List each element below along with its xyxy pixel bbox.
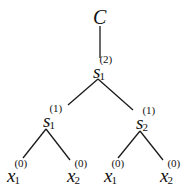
edge-s12-s11 — [68, 79, 98, 105]
node-s2-level1: s(1)2 — [136, 113, 143, 132]
node-subscript: 2 — [74, 175, 80, 186]
node-subscript: 1 — [14, 175, 20, 186]
node-superscript: (2) — [99, 54, 112, 65]
node-subscript: 1 — [111, 175, 117, 186]
edge-s11-leaf2 — [46, 129, 70, 160]
node-leaf-x2-left: x(0)2 — [67, 166, 75, 185]
node-leaf-x2-right: x(0)2 — [160, 166, 168, 185]
node-subscript: 1 — [99, 71, 105, 82]
node-subscript: 2 — [142, 122, 148, 133]
node-leaf-x1-left: x(0)1 — [7, 166, 15, 185]
edge-s12-s21 — [98, 79, 133, 110]
node-subscript: 1 — [49, 120, 55, 131]
node-superscript: (0) — [167, 158, 180, 169]
node-s1-level2: s(2)1 — [93, 62, 100, 81]
node-subscript: 2 — [167, 175, 173, 186]
edge-s21-leaf3 — [118, 131, 140, 158]
edge-s11-leaf1 — [23, 129, 46, 158]
node-superscript: (0) — [74, 158, 87, 169]
node-superscript: (1) — [49, 103, 62, 114]
node-superscript: (0) — [111, 158, 124, 169]
node-root-c: C — [93, 7, 106, 27]
node-superscript: (0) — [14, 158, 27, 169]
edge-s21-leaf4 — [140, 131, 163, 160]
node-s1-level1: s(1)1 — [43, 111, 50, 130]
node-label: C — [93, 6, 106, 28]
tree-diagram: C s(2)1 s(1)1 s(1)2 x(0)1 x(0)2 x(0)1 x(… — [0, 0, 189, 193]
node-superscript: (1) — [142, 105, 155, 116]
node-leaf-x1-right: x(0)1 — [104, 166, 112, 185]
